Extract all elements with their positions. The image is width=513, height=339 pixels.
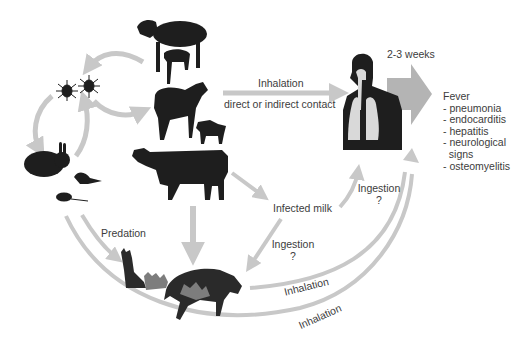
rabbit-icon [24, 142, 70, 177]
goat-with-kid-icon [154, 82, 226, 144]
outcome-list: - pneumonia - endocarditis - hepatitis -… [443, 103, 510, 173]
outcome-title: Fever [443, 91, 510, 103]
label-contact: direct or indirect contact [224, 99, 335, 111]
arrow-ticks-to-goat [94, 101, 143, 115]
tick-icon [56, 75, 100, 101]
label-ingestion-pet: Ingestion ? [268, 239, 318, 262]
label-ingestion-pet-text: Ingestion [268, 239, 318, 251]
label-inhalation-top: Inhalation [258, 78, 304, 90]
arrow-rabbit-to-ticks [76, 99, 87, 156]
label-ingestion-human: Ingestion ? [354, 183, 404, 206]
outcome-item: signs [443, 149, 510, 161]
rodent-icon [56, 193, 88, 202]
cat-with-kittens-icon [121, 248, 168, 290]
label-ingestion-pet-q: ? [268, 251, 318, 263]
arrow-ticks-to-rabbit [35, 96, 52, 150]
human-respiratory-icon [343, 54, 402, 150]
arrow-cow-to-milk [232, 173, 263, 196]
arrow-sheep-to-ticks [88, 53, 143, 68]
outcome-item: - osteomyelitis [443, 161, 510, 173]
label-ingestion-human-q: ? [354, 195, 404, 207]
label-predation: Predation [101, 228, 146, 240]
label-incubation: 2-3 weeks [387, 49, 435, 61]
label-ingestion-human-text: Ingestion [354, 183, 404, 195]
bird-icon [74, 173, 102, 184]
clinical-outcomes: Fever - pneumonia - endocarditis - hepat… [443, 91, 510, 172]
q-fever-transmission-diagram: Inhalation direct or indirect contact 2-… [0, 0, 513, 339]
sheep-with-lamb-icon [137, 20, 207, 84]
cow-icon [132, 148, 228, 200]
label-infected-milk: Infected milk [273, 203, 332, 215]
